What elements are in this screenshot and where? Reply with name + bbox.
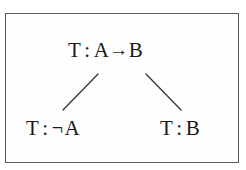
implication-arrow-icon: → (109, 39, 129, 60)
edge-root-to-right (146, 74, 181, 110)
node-right-operand: B (186, 116, 201, 140)
node-left-child: T:¬A (26, 118, 80, 139)
node-right-sign: T (160, 116, 173, 140)
node-root-operand-left: A (94, 38, 110, 62)
node-root-operand-right: B (129, 38, 144, 62)
node-right-colon: : (173, 116, 185, 140)
edge-layer (0, 0, 246, 170)
tableau-diagram-screenshot: T:A→B T:¬A T:B (0, 0, 246, 170)
node-left-sign: T (26, 116, 39, 140)
edge-root-to-left (63, 74, 98, 110)
node-root-sign: T (68, 38, 81, 62)
node-left-operand: A (64, 116, 80, 140)
node-right-child: T:B (160, 118, 200, 139)
negation-icon: ¬ (52, 117, 65, 139)
node-root: T:A→B (68, 40, 143, 61)
node-root-colon: : (81, 38, 93, 62)
node-left-colon: : (39, 116, 51, 140)
